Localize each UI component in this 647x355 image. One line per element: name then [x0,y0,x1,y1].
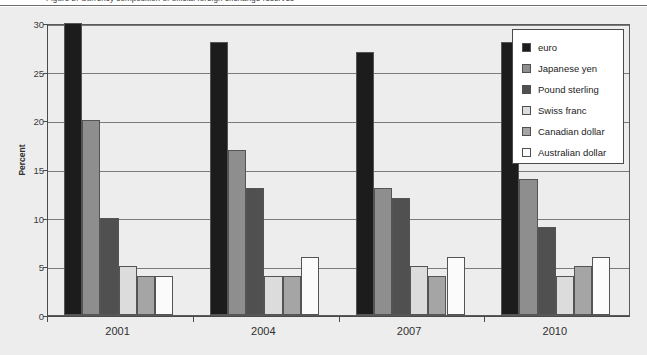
y-axis-tick-label: 30 [22,19,44,30]
gridline [48,219,629,220]
bar [301,257,319,315]
x-axis-tick-mark [193,317,194,322]
x-axis-tick-mark [484,317,485,322]
legend-swatch-icon [522,43,531,52]
bar [392,198,410,315]
y-axis-tick-mark [43,267,47,268]
legend-label: Pound sterling [538,84,599,95]
legend-item: Pound sterling [522,79,623,100]
bar [246,188,264,315]
gridline [48,25,629,26]
bar [100,218,118,315]
figure-container: Figure 2. Currency composition of offici… [0,0,647,355]
bar [538,227,556,315]
x-axis-tick-label: 2010 [543,325,567,337]
y-axis-tick-label: 5 [22,262,44,273]
y-axis-tick-label: 10 [22,213,44,224]
y-axis-tick-label: 20 [22,116,44,127]
bar [137,276,155,315]
legend-label: Canadian dollar [538,126,605,137]
x-axis-tick-mark [339,317,340,322]
legend-item: Japanese yen [522,58,623,79]
bar [264,276,282,315]
y-axis-tick-mark [43,219,47,220]
bar [356,52,374,315]
legend-label: Australian dollar [538,147,606,158]
x-axis-tick-label: 2007 [397,325,421,337]
legend-item: Australian dollar [522,142,623,163]
bar [210,42,228,315]
bar [447,257,465,315]
bar [155,276,173,315]
y-axis-tick-labels: 051015202530 [18,24,44,316]
y-axis-tick-mark [43,121,47,122]
y-axis-tick-mark [43,170,47,171]
figure-caption-text: Figure 2. Currency composition of offici… [46,0,294,3]
legend-swatch-icon [522,85,531,94]
y-axis-line [47,24,48,317]
legend-swatch-icon [522,127,531,136]
legend-label: euro [538,42,557,53]
legend-label: Swiss franc [538,105,587,116]
bar [556,276,574,315]
legend-swatch-icon [522,64,531,73]
legend-swatch-icon [522,148,531,157]
caption-divider-rule [0,5,647,6]
bar [64,23,82,315]
bar [574,266,592,315]
bar [228,150,246,315]
bar [592,257,610,315]
y-axis-tick-label: 15 [22,165,44,176]
bar [283,276,301,315]
figure-caption-strip: Figure 2. Currency composition of offici… [0,0,647,7]
bar [374,188,392,315]
bar [119,266,137,315]
gridline [48,171,629,172]
chart-panel: Percent 051015202530 euroJapanese yenPou… [0,7,647,355]
x-axis-tick-mark [47,317,48,322]
legend-item: Swiss franc [522,100,623,121]
legend-item: Canadian dollar [522,121,623,142]
legend-label: Japanese yen [538,63,597,74]
x-axis-tick-label: 2004 [251,325,275,337]
bar [519,179,537,315]
legend-swatch-icon [522,106,531,115]
y-axis-tick-mark [43,73,47,74]
legend-item: euro [522,37,623,58]
bar [82,120,100,315]
chart-legend: euroJapanese yenPound sterlingSwiss fran… [512,29,624,164]
y-axis-tick-label: 0 [22,311,44,322]
y-axis-tick-mark [43,24,47,25]
bar [428,276,446,315]
y-axis-tick-label: 25 [22,67,44,78]
x-axis-tick-label: 2001 [105,325,129,337]
bar [410,266,428,315]
